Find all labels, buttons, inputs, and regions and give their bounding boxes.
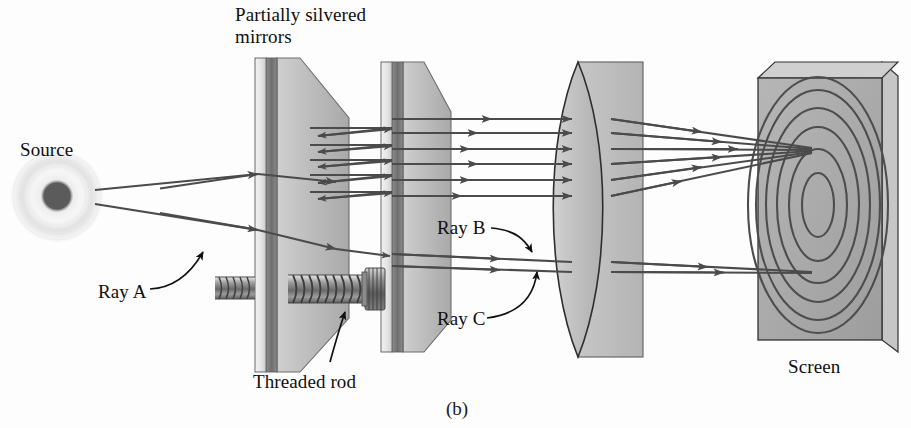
mirrors-label-line1: Partially silvered: [235, 4, 366, 25]
threaded-rod-label: Threaded rod: [253, 371, 356, 392]
ray-a-leader: [150, 252, 203, 289]
interferometer-diagram: [0, 0, 911, 428]
ray-c-label: Ray C: [437, 308, 486, 329]
silvered-coating-1: [266, 58, 277, 372]
adjustment-nut: [362, 268, 385, 310]
mirror-1: [255, 58, 349, 372]
figure-caption: (b): [446, 398, 468, 420]
ray-a-label: Ray A: [98, 281, 147, 302]
source-glow: [9, 148, 105, 244]
ray-c-leader: [487, 272, 537, 318]
source-label: Source: [20, 139, 73, 160]
ray-b-leader: [491, 228, 532, 252]
silvered-coating-2: [392, 62, 403, 352]
ray-a-incident: [95, 174, 258, 230]
figure-canvas: Partially silvered mirrors Source Ray A …: [0, 0, 911, 428]
mirrors-label-line2: mirrors: [235, 26, 292, 47]
screen: [748, 62, 898, 352]
rays: [95, 119, 812, 273]
ray-b-label: Ray B: [437, 217, 486, 238]
lens: [553, 62, 643, 357]
screen-label: Screen: [788, 356, 840, 377]
